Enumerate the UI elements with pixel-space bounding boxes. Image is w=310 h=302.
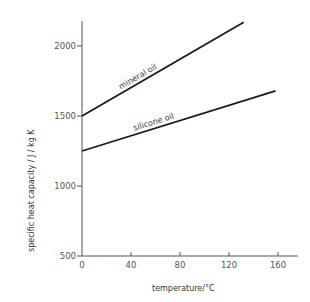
- x-tick-label: 120: [221, 260, 237, 270]
- chart: 04080120160500100015002000 mineral oilsi…: [0, 0, 310, 302]
- axes: 04080120160500100015002000: [54, 21, 298, 270]
- y-axis-label: specific heat capacity / J / kg K: [27, 129, 36, 252]
- x-tick-label: 80: [175, 260, 186, 270]
- x-tick-label: 0: [79, 260, 84, 270]
- series-line-mineral-oil: [82, 22, 244, 116]
- x-axis-label: temperature/°C: [152, 284, 215, 293]
- y-tick-label: 2000: [54, 41, 76, 51]
- x-tick-label: 40: [126, 260, 137, 270]
- series-label: mineral oil: [117, 62, 158, 91]
- y-tick-label: 1500: [54, 111, 76, 121]
- x-tick-label: 160: [270, 260, 286, 270]
- line-chart: 04080120160500100015002000 mineral oilsi…: [0, 0, 310, 302]
- series-group: mineral oilsilicone oil: [82, 22, 276, 151]
- y-tick-label: 1000: [54, 181, 76, 191]
- y-tick-label: 500: [60, 251, 76, 261]
